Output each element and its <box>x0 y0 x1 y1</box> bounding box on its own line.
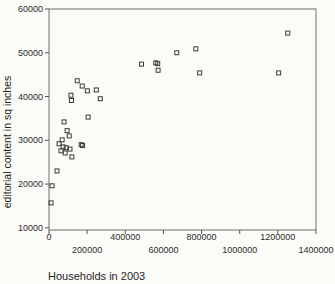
x-tick-label: 1200000 <box>260 232 295 242</box>
y-tick-label: 30000 <box>18 135 43 145</box>
data-point-marker <box>277 71 281 75</box>
data-point-marker <box>80 84 84 88</box>
y-tick-label: 10000 <box>18 223 43 233</box>
data-point-marker <box>63 151 67 155</box>
y-axis-ticks: 100002000030000400005000060000 <box>18 4 49 233</box>
y-tick-label: 60000 <box>18 4 43 14</box>
data-point-marker <box>50 184 54 188</box>
data-point-marker <box>139 62 143 66</box>
data-point-marker <box>60 138 64 142</box>
x-tick-label: 1000000 <box>222 245 257 255</box>
data-point-marker <box>86 115 90 119</box>
data-point-marker <box>57 142 61 146</box>
data-point-marker <box>75 79 79 83</box>
data-points <box>49 31 290 205</box>
x-tick-label: 0 <box>46 232 51 242</box>
data-point-marker <box>94 88 98 92</box>
scatter-plot: 100002000030000400005000060000 020000040… <box>0 0 335 284</box>
y-tick-label: 50000 <box>18 48 43 58</box>
data-point-marker <box>286 31 290 35</box>
data-point-marker <box>70 98 74 102</box>
data-point-marker <box>98 97 102 101</box>
data-point-marker <box>156 68 160 72</box>
data-point-marker <box>67 134 71 138</box>
x-tick-label: 800000 <box>187 232 217 242</box>
data-point-marker <box>59 149 63 153</box>
scatter-figure: 100002000030000400005000060000 020000040… <box>0 0 335 284</box>
data-point-marker <box>70 155 74 159</box>
data-point-marker <box>69 93 73 97</box>
y-tick-label: 20000 <box>18 179 43 189</box>
y-tick-label: 40000 <box>18 92 43 102</box>
data-point-marker <box>62 120 66 124</box>
data-point-marker <box>175 51 179 55</box>
data-point-marker <box>198 71 202 75</box>
data-point-marker <box>55 169 59 173</box>
data-point-marker <box>85 89 89 93</box>
data-point-marker <box>194 47 198 51</box>
data-point-marker <box>49 201 53 205</box>
x-tick-label: 400000 <box>110 232 140 242</box>
x-tick-label: 600000 <box>148 245 178 255</box>
data-point-marker <box>65 129 69 133</box>
x-axis-label: Households in 2003 <box>48 270 145 282</box>
x-axis-ticks: 0200000400000600000800000100000012000001… <box>46 230 333 255</box>
y-axis-label: editorial content in sq inches <box>1 76 13 209</box>
x-tick-label: 1400000 <box>298 245 333 255</box>
x-tick-label: 200000 <box>72 245 102 255</box>
